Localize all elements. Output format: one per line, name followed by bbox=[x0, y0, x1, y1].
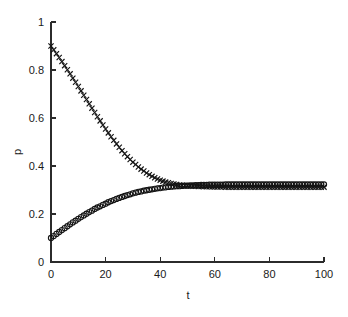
series-decaying-markers bbox=[48, 43, 326, 189]
x-tick-label: 80 bbox=[263, 268, 275, 280]
data-marker-cross bbox=[81, 93, 86, 98]
x-tick-label: 20 bbox=[99, 268, 111, 280]
y-axis-tickmarks bbox=[51, 22, 56, 262]
axis-spines bbox=[51, 22, 324, 262]
data-marker-cross bbox=[84, 97, 89, 102]
axis-spine-left-bottom bbox=[51, 22, 324, 262]
y-tick-label: 0 bbox=[38, 256, 44, 268]
y-axis-title: p bbox=[11, 149, 23, 155]
y-tick-label: 0.6 bbox=[29, 112, 44, 124]
x-tick-label: 40 bbox=[154, 268, 166, 280]
chart-figure: 020406080100 00.20.40.60.81 t p bbox=[0, 0, 348, 317]
x-axis-tickmarks bbox=[51, 257, 324, 262]
data-marker-cross bbox=[89, 106, 94, 111]
data-marker-cross bbox=[111, 138, 116, 143]
x-tick-label: 100 bbox=[315, 268, 333, 280]
data-marker-cross bbox=[76, 84, 81, 89]
y-tick-label: 0.2 bbox=[29, 208, 44, 220]
y-tick-label: 0.4 bbox=[29, 160, 44, 172]
y-tick-label: 0.8 bbox=[29, 64, 44, 76]
series-rising-markers bbox=[48, 182, 326, 241]
x-tick-label: 60 bbox=[209, 268, 221, 280]
x-tick-label: 0 bbox=[48, 268, 54, 280]
x-axis-title: t bbox=[186, 289, 189, 301]
y-tick-label: 1 bbox=[38, 16, 44, 28]
data-marker-cross bbox=[78, 88, 83, 93]
y-axis-tick-labels: 00.20.40.60.81 bbox=[29, 16, 44, 268]
data-marker-cross bbox=[87, 101, 92, 106]
data-marker-cross bbox=[92, 110, 97, 115]
scatter-plot: 020406080100 00.20.40.60.81 t p bbox=[0, 0, 348, 317]
x-axis-tick-labels: 020406080100 bbox=[48, 268, 333, 280]
